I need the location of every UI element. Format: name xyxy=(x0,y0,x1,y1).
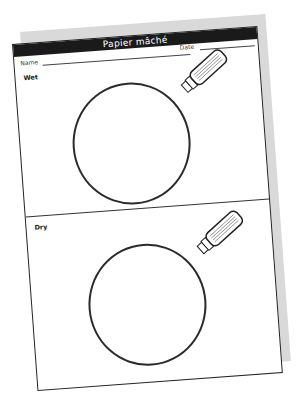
wet-label: Wet xyxy=(23,73,38,82)
magnifier-handle-icon xyxy=(190,204,254,258)
name-line[interactable] xyxy=(43,54,191,66)
magnifier-lens-icon[interactable] xyxy=(84,240,211,370)
name-label: Name xyxy=(20,58,38,66)
dry-label: Dry xyxy=(34,223,47,232)
magnifier-lens-icon[interactable] xyxy=(68,78,195,208)
worksheet-page: Papier mâché Name Date Wet Dry xyxy=(12,26,283,391)
magnifier-handle-icon xyxy=(174,43,238,97)
